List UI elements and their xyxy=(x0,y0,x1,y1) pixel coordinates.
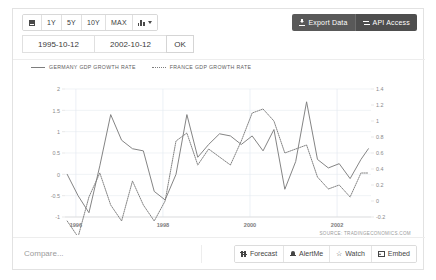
export-data-label: Export Data xyxy=(308,19,347,26)
svg-text:2000: 2000 xyxy=(244,222,256,228)
tradingeconomics-chart-widget: 1Y 5Y 10Y MAX Export Data API Access xyxy=(0,0,436,280)
star-icon: ☆ xyxy=(336,250,342,257)
calendar-icon xyxy=(29,20,35,26)
forecast-button[interactable]: Forecast xyxy=(235,246,284,262)
export-data-button[interactable]: Export Data xyxy=(292,14,354,31)
svg-text:0: 0 xyxy=(376,198,379,204)
api-access-button[interactable]: API Access xyxy=(355,14,417,31)
range-button-max[interactable]: MAX xyxy=(106,15,133,30)
legend-item-france[interactable]: FRANCE GDP GROWTH RATE xyxy=(152,64,252,70)
embed-button[interactable]: Embed xyxy=(372,246,416,262)
svg-text:2002: 2002 xyxy=(331,222,343,228)
svg-text:0: 0 xyxy=(57,172,60,178)
toolbar-divider xyxy=(13,59,425,60)
alertme-label: AlertMe xyxy=(299,250,323,257)
chevron-down-icon xyxy=(148,21,152,24)
embed-label: Embed xyxy=(388,250,410,257)
bar-chart-icon xyxy=(138,20,145,26)
chart-source-label: SOURCE: TRADINGECONOMICS.COM xyxy=(319,231,411,236)
compare-input[interactable] xyxy=(22,245,202,263)
svg-text:0.8: 0.8 xyxy=(376,134,384,140)
range-button-10y[interactable]: 10Y xyxy=(82,15,106,30)
svg-text:-0.2: -0.2 xyxy=(376,214,385,220)
forecast-label: Forecast xyxy=(250,250,277,257)
range-button-1y[interactable]: 1Y xyxy=(42,15,62,30)
watch-button[interactable]: ☆ Watch xyxy=(330,246,372,262)
svg-text:1998: 1998 xyxy=(157,222,169,228)
bottom-button-group: Forecast AlertMe ☆ Watch Embed xyxy=(234,245,417,263)
bell-icon xyxy=(290,250,296,257)
svg-text:1.5: 1.5 xyxy=(53,108,61,114)
chart-toolbar: 1Y 5Y 10Y MAX Export Data API Access xyxy=(13,9,425,35)
svg-text:1: 1 xyxy=(376,118,379,124)
watch-label: Watch xyxy=(345,250,365,257)
ok-button[interactable]: OK xyxy=(166,35,194,53)
svg-text:1.4: 1.4 xyxy=(376,86,384,92)
api-access-label: API Access xyxy=(373,19,410,26)
legend-item-germany[interactable]: GERMANY GDP GROWTH RATE xyxy=(31,64,136,70)
action-button-group: Export Data API Access xyxy=(292,14,417,31)
legend-swatch-solid-icon xyxy=(31,67,45,68)
download-icon xyxy=(299,19,305,26)
sliders-icon xyxy=(241,251,247,257)
legend-label-germany: GERMANY GDP GROWTH RATE xyxy=(49,64,136,70)
chart-plot-area[interactable]: 21.510.50-0.5-11.41.210.80.60.40.20-0.21… xyxy=(13,75,425,235)
calendar-button[interactable] xyxy=(23,15,42,30)
alertme-button[interactable]: AlertMe xyxy=(284,246,330,262)
svg-text:0.2: 0.2 xyxy=(376,182,384,188)
chart-panel: 1Y 5Y 10Y MAX Export Data API Access xyxy=(12,8,424,270)
chart-type-dropdown[interactable] xyxy=(133,15,157,30)
svg-text:0.4: 0.4 xyxy=(376,166,384,172)
legend-swatch-dotted-icon xyxy=(152,67,166,68)
end-date-input[interactable]: 2002-10-12 xyxy=(94,35,166,53)
svg-text:-0.5: -0.5 xyxy=(51,193,60,199)
svg-text:0.6: 0.6 xyxy=(376,150,384,156)
range-button-group: 1Y 5Y 10Y MAX xyxy=(22,14,158,31)
legend-label-france: FRANCE GDP GROWTH RATE xyxy=(170,64,252,70)
date-range-row: 1995-10-12 2002-10-12 OK xyxy=(22,35,194,53)
svg-text:-1: -1 xyxy=(55,214,60,220)
image-icon xyxy=(378,251,385,257)
svg-text:1: 1 xyxy=(57,129,60,135)
start-date-input[interactable]: 1995-10-12 xyxy=(22,35,94,53)
api-icon xyxy=(363,20,370,26)
svg-text:1.2: 1.2 xyxy=(376,102,384,108)
chart-bottom-bar: Forecast AlertMe ☆ Watch Embed xyxy=(13,237,425,269)
svg-text:2: 2 xyxy=(57,86,60,92)
range-button-5y[interactable]: 5Y xyxy=(62,15,82,30)
svg-text:0.5: 0.5 xyxy=(53,150,61,156)
chart-legend: GERMANY GDP GROWTH RATE FRANCE GDP GROWT… xyxy=(31,64,251,70)
chart-svg: 21.510.50-0.5-11.41.210.80.60.40.20-0.21… xyxy=(13,75,425,235)
